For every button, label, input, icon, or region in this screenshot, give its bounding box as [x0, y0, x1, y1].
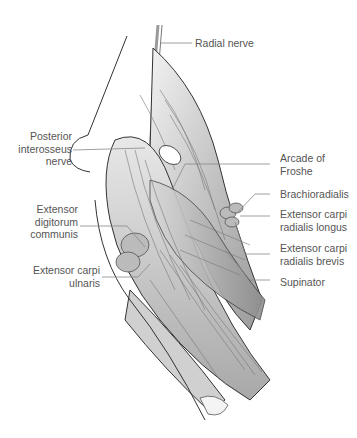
- label-line: Arcade of: [280, 152, 325, 165]
- label-line: radialis brevis: [280, 255, 347, 268]
- label-brachioradialis: Brachioradialis: [280, 188, 349, 201]
- label-extensor-carpi-radialis-longus: Extensor carpi radialis longus: [280, 208, 347, 233]
- label-line: radialis longus: [280, 221, 347, 234]
- label-supinator: Supinator: [280, 276, 325, 289]
- label-radial-nerve: Radial nerve: [195, 37, 254, 50]
- label-line: interosseus: [0, 143, 72, 156]
- label-posterior-interosseus-nerve: Posterior interosseus nerve: [0, 130, 72, 168]
- label-line: Extensor carpi: [280, 208, 347, 221]
- label-extensor-carpi-ulnaris: Extensor carpi ulnaris: [0, 264, 100, 289]
- label-line: Extensor carpi: [0, 264, 100, 277]
- label-line: ulnaris: [0, 277, 100, 290]
- label-arcade-of-froshe: Arcade of Froshe: [280, 152, 325, 177]
- label-line: Posterior: [0, 130, 72, 143]
- label-line: Extensor carpi: [280, 242, 347, 255]
- label-line: communis: [0, 228, 78, 241]
- label-line: Extensor: [0, 203, 78, 216]
- label-extensor-digitorum-communis: Extensor digitorum communis: [0, 203, 78, 241]
- label-line: Froshe: [280, 165, 325, 178]
- label-line: digitorum: [0, 216, 78, 229]
- label-extensor-carpi-radialis-brevis: Extensor carpi radialis brevis: [280, 242, 347, 267]
- label-line: nerve: [0, 155, 72, 168]
